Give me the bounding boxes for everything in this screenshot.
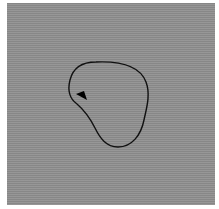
closed-contour bbox=[69, 62, 148, 147]
stimulus-canvas bbox=[0, 0, 219, 209]
arrow-marker-icon bbox=[76, 91, 87, 100]
